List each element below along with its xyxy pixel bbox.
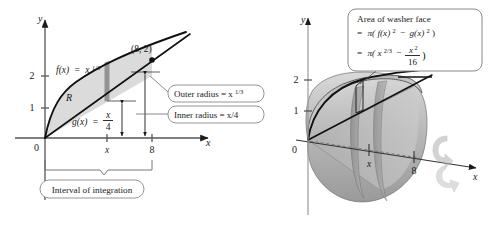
region-r-fill bbox=[45, 44, 152, 138]
inner-radius-callout: Inner radius = x/4 bbox=[168, 106, 264, 123]
wc-l3-frac-num: x bbox=[408, 45, 413, 55]
curve-g bbox=[45, 34, 190, 138]
g-frac-den: 4 bbox=[106, 122, 111, 132]
right-y-axis-label: y bbox=[300, 14, 306, 25]
wc-l2-f: f(x) bbox=[377, 28, 390, 38]
svg-text:Outer radius = x 1/3: Outer radius = x 1/3 bbox=[174, 88, 243, 99]
wc-l3-x: x bbox=[376, 48, 382, 58]
right-xtick-label-x: x bbox=[366, 159, 372, 169]
left-xtick-label-x: x bbox=[104, 145, 110, 155]
washer-area-callout: Area of washer face = π( f(x) 2 − g(x) 2… bbox=[348, 9, 482, 71]
g-label-fn: g(x) bbox=[72, 117, 87, 128]
region-label: R bbox=[65, 92, 72, 103]
g-label-eq: = bbox=[93, 117, 98, 127]
wc-l2-pi: π( bbox=[367, 28, 376, 38]
outer-radius-callout: Outer radius = x 1/3 bbox=[168, 85, 264, 102]
left-ytick-label-1: 1 bbox=[30, 102, 35, 113]
wc-l3-minus: − bbox=[396, 48, 401, 58]
wc-l3-frac-den: 16 bbox=[408, 57, 418, 67]
wc-l2-minus: − bbox=[400, 28, 405, 38]
washer-callout-line1: Area of washer face bbox=[357, 14, 431, 24]
left-x-axis-label: x bbox=[205, 137, 211, 148]
wc-l2-fexp: 2 bbox=[393, 27, 396, 34]
wc-l3-frac-num-exp: 2 bbox=[414, 44, 417, 51]
svg-text:g(x) =: g(x) = bbox=[72, 117, 98, 128]
f-label-exp: 1/3 bbox=[92, 64, 100, 71]
wc-l3-eq: = bbox=[357, 48, 362, 58]
g-frac-num: x bbox=[105, 110, 111, 120]
interval-brace bbox=[45, 160, 152, 175]
left-panel: y x 0 1 2 x 8 f(x) = x 1/3 g(x) bbox=[15, 13, 264, 200]
interval-callout: Interval of integration bbox=[40, 180, 144, 198]
rotation-arrow-icon bbox=[433, 136, 459, 192]
outer-callout-text: Outer radius = x bbox=[174, 89, 233, 99]
intersection-point bbox=[149, 57, 155, 63]
wc-l2-eq: = bbox=[357, 28, 362, 38]
washer-method-figure: y x 0 1 2 x 8 f(x) = x 1/3 g(x) bbox=[0, 0, 491, 232]
left-xtick-label-8: 8 bbox=[150, 144, 155, 155]
solid-of-revolution bbox=[306, 69, 432, 202]
interval-callout-text: Interval of integration bbox=[52, 185, 133, 195]
inner-callout-text: Inner radius = x/4 bbox=[174, 110, 239, 120]
inner-radius-dimension bbox=[107, 101, 136, 136]
point-label: (8, 2) bbox=[131, 44, 152, 55]
f-label-eq: = bbox=[75, 65, 80, 75]
outer-callout-exp: 1/3 bbox=[235, 88, 243, 95]
right-panel: y x 0 1 2 x 8 Area of washer face = π( f… bbox=[292, 9, 482, 215]
right-ytick-label-1: 1 bbox=[294, 105, 299, 116]
wc-l3-xexp: 2/3 bbox=[384, 47, 392, 54]
left-ytick-label-2: 2 bbox=[30, 70, 35, 81]
f-label-fn: f(x) bbox=[56, 65, 69, 76]
wc-l2-close: ) bbox=[432, 28, 435, 38]
right-ytick-label-2: 2 bbox=[294, 74, 299, 85]
outer-callout-leader bbox=[150, 76, 168, 92]
wc-l2-g: g(x) bbox=[409, 28, 424, 38]
wc-l2-gexp: 2 bbox=[427, 27, 430, 34]
left-origin-label: 0 bbox=[34, 142, 39, 153]
left-y-axis-label: y bbox=[37, 13, 43, 24]
right-xtick-label-8: 8 bbox=[412, 165, 417, 176]
right-x-axis-label: x bbox=[472, 171, 478, 182]
right-origin-label: 0 bbox=[292, 144, 297, 155]
wc-l3-pi: π( bbox=[367, 48, 376, 58]
f-label-expr: x bbox=[84, 65, 90, 75]
wc-l3-close: ) bbox=[422, 49, 426, 62]
